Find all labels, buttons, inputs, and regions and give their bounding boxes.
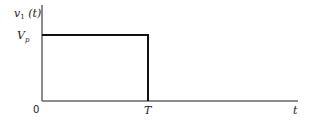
amplitude-label: Vp [17, 29, 30, 44]
pulse-end-label: T [144, 104, 153, 117]
y-axis-label: v1 (t) [14, 7, 41, 21]
x-axis-label: t [293, 104, 298, 117]
pulse-diagram: v1 (t) Vp 0 T t [0, 0, 316, 122]
origin-label: 0 [33, 104, 39, 115]
